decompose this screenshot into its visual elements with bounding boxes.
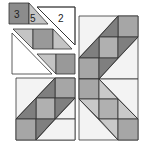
label-3: 3 <box>14 9 20 20</box>
label-2: 2 <box>58 13 64 24</box>
quilt-diagram: 3 5 2 <box>0 0 145 150</box>
block-right-top <box>79 16 138 79</box>
label-5: 5 <box>30 13 36 24</box>
block-bottom-left <box>16 78 75 140</box>
block-right-bottom <box>79 79 138 140</box>
